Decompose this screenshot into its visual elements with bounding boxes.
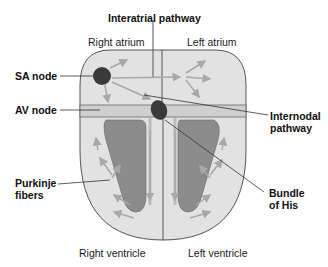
right-atrium-label: Right atrium (88, 36, 145, 48)
left-ventricle-label: Left ventricle (188, 247, 248, 259)
sa-node (93, 67, 111, 85)
purkinje-fibers-label-2: fibers (15, 189, 44, 201)
av-node-label: AV node (15, 104, 57, 116)
purkinje-fibers-label-1: Purkinje (15, 177, 56, 189)
internodal-pathway-label-1: Internodal (270, 110, 321, 122)
bundle-of-his-label-2: of His (269, 199, 298, 211)
bundle-of-his-label-1: Bundle (269, 187, 305, 199)
internodal-pathway-label-2: pathway (270, 122, 312, 134)
left-atrium-label: Left atrium (187, 36, 237, 48)
interatrial-pathway-label: Interatrial pathway (108, 12, 201, 24)
sa-node-label: SA node (15, 70, 57, 82)
right-ventricle-label: Right ventricle (79, 247, 146, 259)
